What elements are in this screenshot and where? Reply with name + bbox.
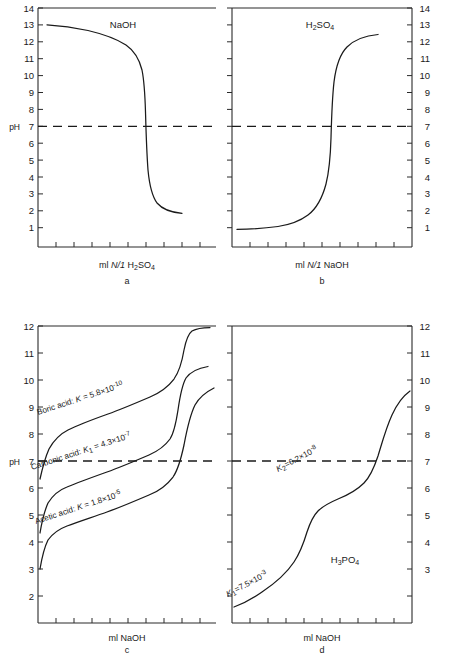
panel-a-ytick-14: 14 bbox=[23, 3, 34, 14]
panel-c-label-carbonic: Carbonic acid: K1 = 4.3×10-7 bbox=[29, 429, 132, 473]
panel-a-ytick-9: 9 bbox=[29, 87, 34, 98]
panel-b-ytick-14: 14 bbox=[419, 3, 430, 14]
panel-a-curve bbox=[47, 25, 182, 213]
panel-a-ytick-8: 8 bbox=[29, 104, 34, 115]
panel-a-ytick-5: 5 bbox=[29, 155, 34, 166]
panel-b-x-ticks bbox=[250, 242, 394, 247]
panel-c-ytick-10: 10 bbox=[23, 375, 34, 386]
panel-c-ytick-3: 3 bbox=[29, 564, 34, 575]
panel-d-ytick-5: 5 bbox=[425, 510, 430, 521]
panel-d-letter: d bbox=[319, 645, 324, 655]
panel-d-ytick-4: 4 bbox=[425, 537, 430, 548]
panel-d-y-ticks bbox=[407, 326, 412, 596]
panel-a-x-ticks bbox=[56, 242, 200, 247]
panel-a-ytick-11: 11 bbox=[24, 53, 34, 64]
panel-b-curve bbox=[237, 35, 378, 230]
panel-b-ytick-12: 12 bbox=[419, 36, 430, 47]
panel-c-x-ticks bbox=[56, 618, 200, 623]
panel-a-xaxis-title: ml N/1 H2SO4 bbox=[99, 260, 155, 271]
panel-c-ytick-6: 6 bbox=[29, 483, 34, 494]
panel-b-left-ticks bbox=[227, 8, 232, 228]
panel-a-ytick-3: 3 bbox=[29, 188, 34, 199]
panel-c-curve-acetic bbox=[40, 388, 214, 569]
panel-d-ytick-9: 9 bbox=[425, 402, 430, 413]
panel-c-ytick-2: 2 bbox=[29, 591, 34, 602]
panel-c-ph-label: pH bbox=[9, 457, 20, 467]
panel-b-species-label: H2SO4 bbox=[306, 19, 335, 31]
panel-a-ytick-6: 6 bbox=[29, 138, 34, 149]
panel-d-ytick-8: 8 bbox=[425, 429, 430, 440]
panel-c-letter: c bbox=[125, 645, 130, 655]
panel-d-ytick-6: 6 bbox=[425, 483, 430, 494]
panel-d-ytick-11: 11 bbox=[420, 348, 430, 359]
panel-b-ytick-1: 1 bbox=[425, 222, 430, 233]
panel-b-ytick-2: 2 bbox=[425, 205, 430, 216]
panel-b-ytick-6: 6 bbox=[425, 138, 430, 149]
panel-c: 12 11 10 9 8 pH 7 6 5 4 3 2 bbox=[9, 321, 216, 655]
panel-b-ytick-10: 10 bbox=[419, 70, 430, 81]
panel-d-ytick-12: 12 bbox=[419, 321, 430, 332]
panel-a-ytick-1: 1 bbox=[29, 222, 34, 233]
panel-d-ytick-10: 10 bbox=[419, 375, 430, 386]
panel-b-ytick-9: 9 bbox=[425, 87, 430, 98]
panel-c-ytick-4: 4 bbox=[29, 537, 34, 548]
panel-c-ytick-11: 11 bbox=[24, 348, 34, 359]
panel-d-k2-label: K2=6.2×10-8 bbox=[274, 443, 320, 475]
panel-d-species-label: H3PO4 bbox=[331, 554, 360, 566]
panel-a-ytick-10: 10 bbox=[23, 70, 34, 81]
panel-a-ytick-7: 7 bbox=[29, 121, 34, 132]
panel-d-x-ticks bbox=[250, 618, 394, 623]
panel-a: 14 13 12 11 10 9 8 pH 7 6 5 4 3 2 1 bbox=[9, 3, 216, 287]
panel-b-ytick-11: 11 bbox=[420, 53, 430, 64]
panel-d: 12 11 10 9 8 7 6 5 4 3 bbox=[224, 321, 430, 655]
panel-a-ph-label: pH bbox=[9, 122, 20, 132]
panel-c-ytick-12: 12 bbox=[23, 321, 34, 332]
panel-b-ytick-4: 4 bbox=[425, 172, 430, 183]
panel-a-letter: a bbox=[124, 276, 129, 286]
panel-c-label-boric: Boric acid: K = 5.8×10-10 bbox=[35, 379, 124, 417]
panel-b-letter: b bbox=[319, 276, 324, 286]
panel-c-ytick-9: 9 bbox=[29, 402, 34, 413]
figure-svg: 14 13 12 11 10 9 8 pH 7 6 5 4 3 2 1 bbox=[0, 0, 450, 655]
panel-d-k1-label: K1=7.5×10-3 bbox=[224, 568, 270, 600]
panel-d-ytick-3: 3 bbox=[425, 564, 430, 575]
panel-b-ytick-5: 5 bbox=[425, 155, 430, 166]
panel-c-ytick-8: 8 bbox=[29, 429, 34, 440]
panel-b-ytick-7: 7 bbox=[425, 121, 430, 132]
panel-a-ytick-13: 13 bbox=[23, 19, 34, 30]
panel-b-xaxis-title: ml N/1 NaOH bbox=[295, 260, 349, 270]
panel-a-species-label: NaOH bbox=[110, 19, 137, 30]
panel-b-ytick-13: 13 bbox=[419, 19, 430, 30]
panel-c-ytick-5: 5 bbox=[29, 510, 34, 521]
panel-b-ytick-3: 3 bbox=[425, 188, 430, 199]
panel-a-ytick-12: 12 bbox=[23, 36, 34, 47]
panel-b-ytick-labels: 14 13 12 11 10 9 8 7 6 5 4 3 2 1 bbox=[419, 3, 430, 234]
titration-figure: 14 13 12 11 10 9 8 pH 7 6 5 4 3 2 1 bbox=[0, 0, 450, 655]
panel-a-y-ticks bbox=[38, 8, 43, 228]
panel-b: 14 13 12 11 10 9 8 7 6 5 4 3 2 1 bbox=[227, 3, 430, 287]
panel-b-y-ticks bbox=[407, 8, 412, 228]
panel-d-xaxis-title: ml NaOH bbox=[303, 633, 340, 643]
panel-a-ytick-4: 4 bbox=[29, 172, 34, 183]
panel-a-ytick-2: 2 bbox=[29, 205, 34, 216]
panel-d-left-ticks bbox=[227, 326, 232, 596]
panel-c-xaxis-title: ml NaOH bbox=[108, 633, 145, 643]
panel-d-ytick-7: 7 bbox=[425, 456, 430, 467]
panel-b-ytick-8: 8 bbox=[425, 104, 430, 115]
